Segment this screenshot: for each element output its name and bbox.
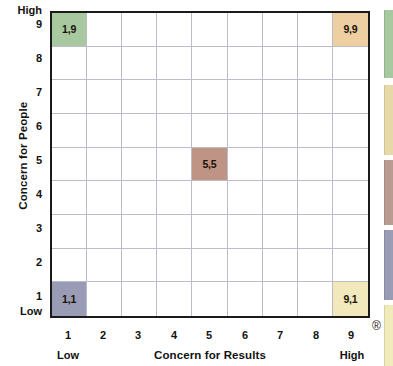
grid-cell-3-5 (122, 148, 157, 182)
grid-cell-7-2 (263, 249, 298, 283)
grid-cell-9-7 (333, 80, 368, 114)
grid-cell-1-5 (52, 148, 87, 182)
grid-cell-3-8 (122, 47, 157, 81)
grid-cell-2-2 (87, 249, 122, 283)
grid-cell-4-5 (157, 148, 192, 182)
swatch-slate (384, 230, 393, 300)
grid-cell-8-3 (298, 215, 333, 249)
grid-cell-2-3 (87, 215, 122, 249)
grid-cell-5-7 (192, 80, 227, 114)
grid-cell-5-8 (192, 47, 227, 81)
grid-cell-6-4 (228, 181, 263, 215)
grid-cell-4-3 (157, 215, 192, 249)
grid-cell-7-7 (263, 80, 298, 114)
grid-cell-8-9 (298, 13, 333, 47)
x-tick-6: 6 (227, 330, 263, 341)
grid-cell-2-1 (87, 282, 122, 316)
x-tick-9: 9 (333, 330, 369, 341)
x-tick-5: 5 (191, 330, 227, 341)
swatch-yellow (384, 305, 393, 366)
x-tick-2: 2 (85, 330, 121, 341)
grid-cell-4-6 (157, 114, 192, 148)
grid-cell-5-2 (192, 249, 227, 283)
grid-cell-4-2 (157, 249, 192, 283)
swatch-mauve (384, 160, 393, 225)
grid-cell-6-2 (228, 249, 263, 283)
grid-cell-5-9 (192, 13, 227, 47)
x-tick-4: 4 (156, 330, 192, 341)
grid-cell-2-4 (87, 181, 122, 215)
grid-cell-7-1 (263, 282, 298, 316)
y-axis-high-label: High (2, 5, 42, 16)
grid-cell-8-2 (298, 249, 333, 283)
grid-cell-6-8 (228, 47, 263, 81)
grid-cell-7-5 (263, 148, 298, 182)
grid-cell-8-4 (298, 181, 333, 215)
x-axis-high-label: High (326, 350, 378, 361)
grid-cell-5-1 (192, 282, 227, 316)
y-tick-6: 6 (2, 121, 42, 132)
grid-cell-7-4 (263, 181, 298, 215)
grid-plot-area: 1,99,95,51,19,1 (50, 11, 370, 318)
grid-cell-2-5 (87, 148, 122, 182)
grid-cell-3-2 (122, 249, 157, 283)
y-tick-9: 9 (2, 19, 42, 30)
grid-cells: 1,99,95,51,19,1 (52, 13, 368, 316)
registered-trademark-icon: ® (372, 320, 381, 332)
x-axis-title: Concern for Results (120, 350, 300, 362)
grid-cell-1-6 (52, 114, 87, 148)
grid-cell-7-8 (263, 47, 298, 81)
grid-cell-9-8 (333, 47, 368, 81)
grid-cell-5-6 (192, 114, 227, 148)
grid-cell-2-6 (87, 114, 122, 148)
grid-cell-9-5 (333, 148, 368, 182)
grid-cell-2-8 (87, 47, 122, 81)
swatch-tan (384, 85, 393, 155)
grid-cell-3-4 (122, 181, 157, 215)
y-tick-3: 3 (2, 223, 42, 234)
y-tick-4: 4 (2, 189, 42, 200)
grid-cell-9-6 (333, 114, 368, 148)
y-tick-8: 8 (2, 53, 42, 64)
grid-cell-9-2 (333, 249, 368, 283)
grid-cell-9-4 (333, 181, 368, 215)
x-tick-1: 1 (50, 330, 86, 341)
x-axis-low-label: Low (42, 350, 94, 361)
grid-cell-6-3 (228, 215, 263, 249)
grid-cell-team-style: 9,9 (333, 13, 368, 47)
grid-cell-1-3 (52, 215, 87, 249)
y-tick-2: 2 (2, 257, 42, 268)
grid-cell-1-8 (52, 47, 87, 81)
y-tick-1: 1 (2, 291, 42, 302)
swatch-green (384, 10, 393, 78)
grid-cell-3-3 (122, 215, 157, 249)
grid-cell-3-7 (122, 80, 157, 114)
grid-cell-4-4 (157, 181, 192, 215)
grid-cell-6-5 (228, 148, 263, 182)
grid-cell-3-6 (122, 114, 157, 148)
grid-cell-7-3 (263, 215, 298, 249)
grid-cell-authority-compliance: 9,1 (333, 282, 368, 316)
y-tick-7: 7 (2, 87, 42, 98)
grid-cell-2-9 (87, 13, 122, 47)
grid-cell-8-8 (298, 47, 333, 81)
grid-cell-6-1 (228, 282, 263, 316)
grid-cell-7-9 (263, 13, 298, 47)
grid-cell-5-4 (192, 181, 227, 215)
grid-cell-9-3 (333, 215, 368, 249)
grid-cell-4-8 (157, 47, 192, 81)
grid-cell-5-3 (192, 215, 227, 249)
grid-cell-8-5 (298, 148, 333, 182)
grid-cell-6-9 (228, 13, 263, 47)
grid-cell-country-club-style: 1,9 (52, 13, 87, 47)
grid-cell-3-9 (122, 13, 157, 47)
grid-cell-impoverished-style: 1,1 (52, 282, 87, 316)
y-axis-low-label: Low (2, 306, 42, 317)
y-tick-5: 5 (2, 155, 42, 166)
grid-cell-8-7 (298, 80, 333, 114)
grid-cell-2-7 (87, 80, 122, 114)
x-tick-7: 7 (262, 330, 298, 341)
grid-cell-6-7 (228, 80, 263, 114)
grid-cell-7-6 (263, 114, 298, 148)
